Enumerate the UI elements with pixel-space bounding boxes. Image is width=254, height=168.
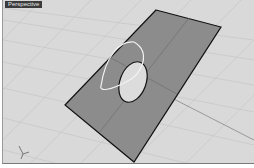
x-axis-line: [166, 95, 253, 140]
perspective-viewport[interactable]: Perspective: [2, 0, 253, 164]
world-axes-icon: [15, 142, 33, 160]
viewport-title[interactable]: Perspective: [5, 1, 42, 8]
scene-canvas[interactable]: [3, 0, 253, 163]
